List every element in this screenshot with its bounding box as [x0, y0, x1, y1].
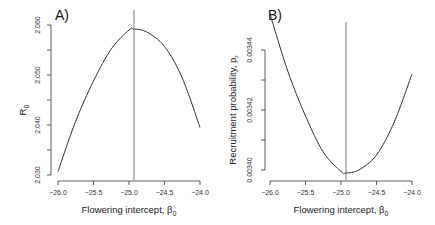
- x-tick-label: −25.0: [120, 189, 138, 196]
- y-tick-label: 2.050: [34, 66, 41, 84]
- panel-a-axes: 2.0302.0402.0502.060−26.0−25.5−25.0−24.5…: [34, 16, 209, 196]
- panel-b-x-axis-title: Flowering intercept, β0: [294, 204, 389, 217]
- y-tick-label: 0.00342: [246, 97, 253, 122]
- panel-a-r0-chart: A) 2.0302.0402.0502.060−26.0−25.5−25.0−2…: [17, 7, 209, 217]
- panel-b-recruitment-chart: B) 0.003400.003420.00344−26.0−25.5−25.0−…: [227, 7, 421, 217]
- x-tick-label: −26.0: [261, 189, 279, 196]
- figure: A) 2.0302.0402.0502.060−26.0−25.5−25.0−2…: [0, 0, 435, 225]
- x-tick-label: −25.5: [85, 189, 103, 196]
- panel-b-axes: 0.003400.003420.00344−26.0−25.5−25.0−24.…: [246, 37, 421, 196]
- x-tick-label: −24.5: [156, 189, 174, 196]
- panel-b-y-axis-title: Recruitment probability, pr: [227, 55, 240, 165]
- panel-a-r0-curve: [58, 28, 200, 171]
- x-tick-label: −24.0: [191, 189, 209, 196]
- y-tick-label: 2.030: [34, 166, 41, 184]
- y-tick-label: 2.060: [34, 16, 41, 34]
- x-tick-label: −25.5: [297, 189, 315, 196]
- panel-b-recruitment-curve: [270, 14, 412, 174]
- x-tick-label: −25.0: [332, 189, 350, 196]
- y-tick-label: 2.040: [34, 116, 41, 134]
- x-tick-label: −24.0: [403, 189, 421, 196]
- panel-a-y-axis-title: R0: [17, 105, 30, 116]
- panel-a-x-axis-title: Flowering intercept, β0: [82, 204, 177, 217]
- x-tick-label: −26.0: [49, 189, 67, 196]
- x-tick-label: −24.5: [368, 189, 386, 196]
- y-tick-label: 0.00344: [246, 37, 253, 62]
- panel-a-label: A): [55, 7, 69, 23]
- y-tick-label: 0.00340: [246, 157, 253, 182]
